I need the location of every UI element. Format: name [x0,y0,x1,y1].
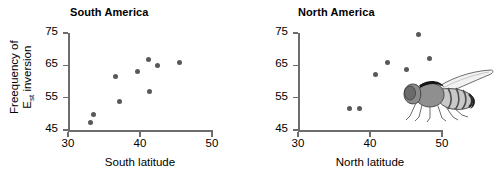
y-axis-tick-label: 45 [260,122,288,134]
data-point [88,120,93,125]
data-point [385,60,390,65]
x-axis-tick [297,132,299,137]
x-axis-tick [211,132,213,137]
y-axis-tick-label: 65 [260,57,288,69]
x-axis-tick-label: 30 [283,137,313,149]
y-axis-tick [293,97,298,99]
y-axis-tick-label: 75 [260,25,288,37]
data-point [416,32,421,37]
data-point [177,60,182,65]
y-axis-tick [63,32,68,34]
data-point [347,106,352,111]
panel-title-north-america: North America [298,6,375,18]
x-axis-tick [441,132,443,137]
x-axis-tick [67,132,69,137]
y-axis-tick-label: 45 [30,122,58,134]
x-axis-tick-label: 50 [197,137,227,149]
data-point [146,57,151,62]
x-axis-tick-label: 50 [427,137,457,149]
y-axis-tick [63,97,68,99]
x-axis-tick-label: 40 [355,137,385,149]
y-axis-tick-label: 55 [260,90,288,102]
x-axis-title-south-america: South latitude [58,156,222,168]
data-point [117,99,122,104]
data-point [113,74,118,79]
plot-area-south-america: 45556575304050 [68,33,212,130]
panel-title-south-america: South America [70,6,149,18]
y-axis-tick-label: 55 [30,90,58,102]
drosophila-fly-icon [396,66,496,124]
y-axis-tick [63,65,68,67]
y-axis-tick [293,65,298,67]
x-axis-tick-label: 40 [125,137,155,149]
x-axis-tick-label: 30 [53,137,83,149]
y-axis-tick [293,32,298,34]
data-point [91,112,96,117]
y-axis-tick [293,129,298,131]
x-axis-title-north-america: North latitude [288,156,452,168]
y-axis-spine [298,33,300,132]
y-axis-tick [63,129,68,131]
y-axis-spine [68,33,70,132]
data-point [155,63,160,68]
data-point [147,89,152,94]
x-axis-tick [139,132,141,137]
data-point [427,56,432,61]
data-point [135,69,140,74]
scatter-figure: Freequency of Est inversion South Americ… [0,0,499,174]
y-axis-tick-label: 75 [30,25,58,37]
data-point [373,72,378,77]
y-axis-tick-label: 65 [30,57,58,69]
data-point [357,106,362,111]
panel-south-america: South America 45556575304050 South latit… [0,0,230,174]
x-axis-tick [369,132,371,137]
